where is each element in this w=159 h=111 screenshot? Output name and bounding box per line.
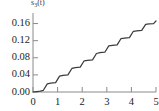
axes bbox=[33, 13, 156, 92]
data-series-line bbox=[33, 21, 156, 92]
plot-area bbox=[0, 0, 159, 111]
chart-container: s3(t) 0.000.040.080.120.16 012345 bbox=[0, 0, 159, 111]
